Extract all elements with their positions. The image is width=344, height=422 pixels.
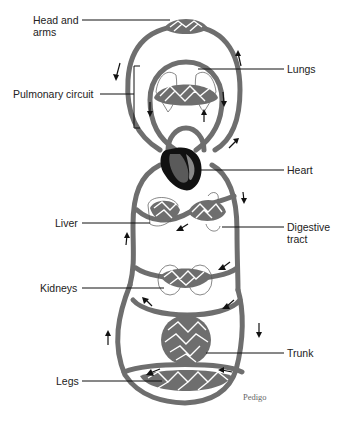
label-liver: Liver — [55, 217, 78, 229]
kidneys-capillary-bed — [158, 265, 212, 295]
arrow-down-icon — [113, 63, 120, 81]
lungs-capillary-bed — [154, 72, 218, 112]
label-pulmonary-circuit: Pulmonary circuit — [13, 88, 94, 100]
arrow-left-icon — [176, 224, 188, 231]
arrow-down-icon — [256, 323, 262, 338]
arrow-left-icon — [218, 262, 230, 270]
label-digestive-line1: Digestive — [287, 221, 330, 233]
label-kidneys: Kidneys — [40, 282, 77, 294]
label-lungs: Lungs — [287, 63, 316, 75]
credit-text: Pedigo — [243, 392, 267, 402]
label-legs: Legs — [56, 375, 79, 387]
label-trunk: Trunk — [287, 347, 313, 359]
arrow-up-icon — [201, 109, 207, 122]
label-digestive-line2: tract — [287, 233, 330, 245]
arrow-up-icon — [105, 330, 111, 345]
label-head-arms-line2: arms — [33, 26, 79, 38]
arrow-down-icon — [241, 192, 247, 204]
arrow-up-right-icon — [229, 138, 239, 148]
trunk-capillary-bed — [161, 315, 211, 365]
circulatory-diagram: Head and arms Pulmonary circuit Lungs He… — [0, 0, 344, 422]
heart-icon — [161, 148, 202, 191]
label-digestive-tract: Digestive tract — [287, 221, 330, 245]
label-head-arms: Head and arms — [33, 14, 79, 38]
label-head-arms-line1: Head and — [33, 14, 79, 26]
arrow-up-icon — [124, 232, 130, 245]
label-heart: Heart — [287, 164, 313, 176]
head-arms-capillary-bed — [164, 19, 208, 34]
